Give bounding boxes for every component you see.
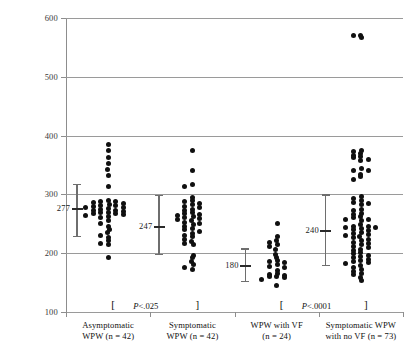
y-tick-label-300: 300 — [18, 189, 58, 199]
x-category-label-4: Symptomatic WPWwith no VF (n = 73) — [315, 320, 407, 341]
x-tick-mark-1 — [150, 312, 151, 317]
data-point — [190, 226, 195, 231]
data-point — [106, 255, 111, 260]
x-tick-mark-3 — [319, 312, 320, 317]
y-tick-label-500: 500 — [18, 72, 58, 82]
x-category-label-line: Asymptomatic — [62, 320, 154, 331]
data-point — [351, 272, 356, 277]
pval-2-bracket-close: ] — [364, 298, 368, 310]
x-category-label-1: AsymptomaticWPW (n = 42) — [62, 320, 154, 341]
error-bar-stem — [158, 195, 159, 254]
data-point — [106, 173, 111, 178]
data-point — [358, 174, 363, 179]
pval-2-bracket-open: [ — [280, 298, 284, 310]
data-point — [121, 212, 126, 217]
data-point — [351, 33, 356, 38]
error-bar-cap-upper — [73, 184, 81, 185]
data-point — [106, 148, 111, 153]
pval-2-text: P<.0001 — [302, 301, 331, 311]
data-point — [351, 177, 356, 182]
data-point — [366, 157, 371, 162]
pval-1-bracket-open: [ — [111, 298, 115, 310]
scatter-plot-figure: 100200300400500600 277247180240 []P<.025… — [0, 0, 410, 357]
y-tick-label-400: 400 — [18, 131, 58, 141]
error-bar-cap-lower — [155, 254, 163, 255]
data-point — [275, 262, 280, 267]
data-point — [267, 274, 272, 279]
data-point — [182, 184, 187, 189]
mean-marker — [154, 226, 165, 228]
error-bar-cap-upper — [322, 194, 330, 195]
data-point — [83, 205, 88, 210]
data-point — [105, 167, 110, 172]
data-point — [106, 218, 111, 223]
x-tick-mark-4 — [403, 312, 404, 317]
data-point — [351, 200, 356, 205]
data-point — [106, 161, 111, 166]
mean-value-label-1: 277 — [40, 203, 70, 213]
data-point — [373, 225, 378, 230]
data-point — [274, 283, 279, 288]
data-point — [105, 230, 110, 235]
data-point — [106, 142, 111, 147]
data-point — [175, 217, 180, 222]
x-tick-mark-0 — [66, 312, 67, 317]
data-point — [358, 158, 363, 163]
data-point — [98, 241, 103, 246]
x-category-label-3: WPW with VF(n = 24) — [231, 320, 323, 341]
data-point — [366, 217, 371, 222]
data-point — [359, 166, 364, 171]
data-point — [197, 216, 202, 221]
x-category-label-line: with no VF (n = 73) — [315, 331, 407, 342]
x-category-label-line: WPW (n = 42) — [62, 331, 154, 342]
x-category-label-2: SymptomaticWPW (n = 42) — [146, 320, 238, 341]
data-point — [197, 229, 202, 234]
data-point — [359, 278, 364, 283]
data-point — [366, 201, 371, 206]
data-point — [190, 267, 195, 272]
data-point — [343, 225, 348, 230]
data-point — [197, 221, 202, 226]
data-point — [98, 221, 103, 226]
data-point — [343, 233, 348, 238]
data-point — [113, 211, 118, 216]
data-point — [98, 215, 103, 220]
data-point — [182, 265, 187, 270]
pval-1-text: P<.025 — [133, 301, 158, 311]
data-point — [351, 215, 356, 220]
mean-marker — [240, 265, 251, 267]
data-point — [275, 221, 280, 226]
data-point — [274, 274, 279, 279]
data-point — [91, 211, 96, 216]
mean-value-label-4: 240 — [289, 225, 319, 235]
data-point — [182, 227, 187, 232]
data-point — [197, 205, 202, 210]
data-point — [351, 259, 356, 264]
mean-marker — [320, 230, 331, 232]
data-point — [191, 242, 196, 247]
data-point — [359, 35, 364, 40]
x-category-label-line: (n = 24) — [231, 331, 323, 342]
data-point — [273, 247, 278, 252]
data-point — [267, 244, 272, 249]
x-category-label-line: WPW (n = 42) — [146, 331, 238, 342]
x-category-label-line: WPW with VF — [231, 320, 323, 331]
data-point — [259, 277, 264, 282]
data-point — [351, 168, 356, 173]
data-point — [358, 258, 363, 263]
data-point — [282, 265, 287, 270]
data-point — [366, 260, 371, 265]
data-point — [351, 155, 356, 160]
data-point — [98, 233, 103, 238]
data-point — [190, 182, 195, 187]
data-point — [106, 242, 111, 247]
mean-value-label-3: 180 — [209, 260, 239, 270]
data-point — [190, 148, 195, 153]
data-point — [182, 241, 187, 246]
data-point — [343, 217, 348, 222]
error-bar-cap-lower — [73, 236, 81, 237]
y-tick-label-200: 200 — [18, 248, 58, 258]
mean-marker — [72, 208, 83, 210]
data-point — [366, 168, 371, 173]
error-bar-cap-upper — [241, 248, 249, 249]
